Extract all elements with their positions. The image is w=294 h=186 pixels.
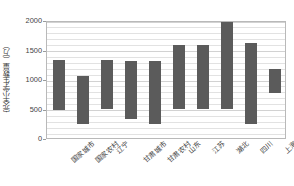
bar-chart: 完全小学生数量（万） 0500100015002000 国家城市国家农村辽宁甘肃… — [0, 0, 294, 186]
plot-area — [46, 21, 286, 139]
bar — [269, 69, 280, 93]
y-tick-label: 0 — [0, 135, 42, 142]
x-tick-label: 甘肃城市 — [142, 140, 168, 165]
bar — [149, 61, 160, 124]
gridline-minor — [47, 128, 285, 129]
x-tick-label: 国家城市 — [70, 140, 96, 165]
bar — [197, 45, 208, 109]
bar — [173, 45, 184, 109]
y-tick-label: 500 — [0, 106, 42, 113]
bar — [77, 76, 88, 124]
bar — [125, 61, 136, 119]
bar — [53, 60, 64, 110]
x-tick-label: 江苏 — [211, 140, 227, 155]
y-tick-label: 2000 — [0, 17, 42, 24]
y-tick-label: 1500 — [0, 47, 42, 54]
x-tick-label: 四川 — [259, 140, 275, 155]
y-tick-label: 1000 — [0, 76, 42, 83]
gridline-minor — [47, 27, 285, 28]
gridline-minor — [47, 134, 285, 135]
x-axis-labels: 国家城市国家农村辽宁甘肃城市甘肃农村山东江苏湖北四川上海 — [46, 140, 286, 186]
gridline-minor — [47, 39, 285, 40]
x-tick-label: 上海 — [283, 140, 294, 155]
gridline-minor — [47, 33, 285, 34]
bar — [101, 60, 112, 108]
x-tick-label: 湖北 — [235, 140, 251, 155]
bar — [245, 43, 256, 124]
bar — [221, 22, 232, 109]
gridline-major — [47, 22, 285, 23]
